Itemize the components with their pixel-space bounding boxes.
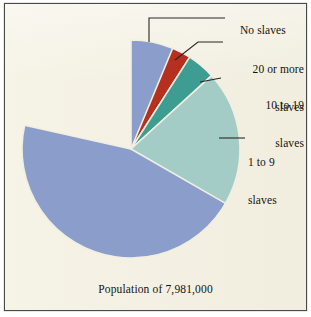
pie-label-1-to-9-slaves: 1 to 9 slaves — [248, 131, 304, 231]
pie-slices-group — [22, 40, 240, 258]
leader-line-no-slaves — [149, 18, 225, 42]
pie-label-no-slaves-text: No slaves — [240, 24, 286, 36]
chart-caption: Population of 7,981,000 — [0, 283, 311, 295]
pie-label-1-to-9-line2: slaves — [248, 194, 304, 207]
chart-figure: No slaves 20 or more slaves 10 to 19 sla… — [0, 0, 311, 317]
pie-label-1-to-9-line1: 1 to 9 — [248, 156, 304, 169]
pie-label-10-to-19-line1: 10 to 19 — [224, 99, 304, 112]
